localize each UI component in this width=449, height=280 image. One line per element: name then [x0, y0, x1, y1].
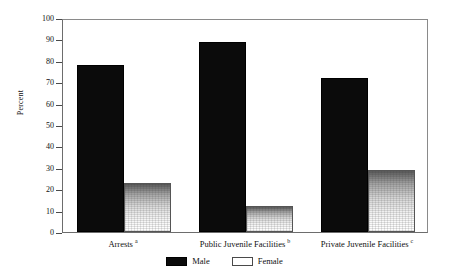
y-tick-label: 30 — [0, 165, 54, 173]
bar-male-1 — [77, 65, 124, 232]
x-category-label-3: Private Juvenile Facilitiesc — [277, 236, 449, 249]
y-tick-label: 10 — [0, 208, 54, 216]
legend-label-female: Female — [258, 256, 283, 266]
legend-item-male: Male — [166, 256, 209, 266]
y-tick-label: 80 — [0, 58, 54, 66]
bar-female-2 — [246, 206, 293, 232]
bar-female-3 — [368, 170, 415, 232]
y-tick-label: 50 — [0, 122, 54, 130]
category-footnote-marker: a — [135, 238, 138, 244]
y-tick-mark — [56, 233, 62, 234]
y-tick-label: 40 — [0, 143, 54, 151]
legend-swatch-male — [166, 257, 187, 266]
chart-legend: Male Female — [0, 256, 449, 266]
y-tick-label: 100 — [0, 15, 54, 23]
bar-male-2 — [199, 42, 246, 232]
legend-swatch-female — [232, 257, 253, 266]
bar-male-3 — [321, 78, 368, 232]
y-tick-label: 70 — [0, 79, 54, 87]
bar-female-1 — [124, 183, 171, 232]
y-tick-label: 20 — [0, 186, 54, 194]
y-tick-label: 90 — [0, 36, 54, 44]
legend-label-male: Male — [192, 256, 209, 266]
category-name: Arrests — [108, 239, 133, 249]
category-name: Public Juvenile Facilities — [200, 239, 285, 249]
category-footnote-marker: c — [411, 238, 414, 244]
y-tick-label: 60 — [0, 101, 54, 109]
bar-chart-figure: Percent 0102030405060708090100 ArrestsaP… — [0, 0, 449, 280]
category-name: Private Juvenile Facilities — [321, 239, 409, 249]
legend-item-female: Female — [232, 256, 283, 266]
plot-area — [62, 19, 428, 233]
